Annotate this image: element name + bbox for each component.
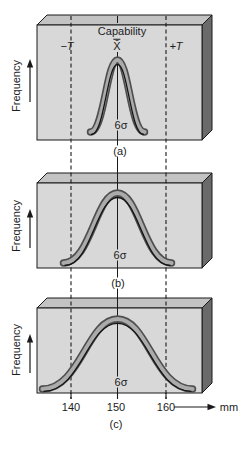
frequency-arrow-c-head — [27, 334, 33, 343]
slab-a-top-face — [37, 15, 212, 25]
slab-c-side-face — [202, 298, 212, 393]
process-capability-figure: Capability X̄ −T +T 6σ 6σ 6σ (a) (b) (c)… — [0, 0, 250, 449]
panel-caption-a: (a) — [111, 146, 128, 157]
frequency-arrow-b — [27, 209, 33, 248]
sigma-label-b: 6σ — [112, 250, 129, 261]
slab-b-side-face — [202, 173, 212, 268]
frequency-label-c: Frequency — [11, 324, 22, 376]
axis-tick-label-150: 150 — [107, 402, 125, 413]
slab-c-top-face — [37, 298, 212, 308]
frequency-arrow-b-head — [27, 209, 33, 218]
panel-caption-c: (c) — [108, 419, 125, 430]
slab-a-side-face — [202, 15, 212, 140]
panel-caption-b: (b) — [109, 278, 126, 289]
mean-symbol-glyph: X̄ — [113, 39, 120, 52]
mm-arrow-head — [208, 404, 217, 410]
sigma-label-c: 6σ — [113, 377, 130, 388]
capability-label: Capability — [98, 26, 146, 37]
mm-axis-arrow — [174, 404, 216, 410]
frequency-arrow-c — [27, 334, 33, 373]
frequency-label-a: Frequency — [11, 60, 22, 112]
axis-unit-label: mm — [220, 402, 238, 413]
frequency-arrow-a-head — [27, 59, 33, 68]
mean-symbol: X̄ — [113, 39, 120, 52]
axis-tick-label-140: 140 — [62, 402, 80, 413]
sigma-label-a: 6σ — [113, 120, 130, 131]
axis-ticks — [71, 393, 166, 399]
axis-tick-label-160: 160 — [157, 402, 175, 413]
frequency-label-b: Frequency — [11, 200, 22, 252]
lower-tolerance-label: −T — [60, 41, 73, 52]
frequency-arrow-a — [27, 59, 33, 102]
upper-tolerance-label: +T — [169, 41, 182, 52]
slab-b-top-face — [37, 173, 212, 183]
